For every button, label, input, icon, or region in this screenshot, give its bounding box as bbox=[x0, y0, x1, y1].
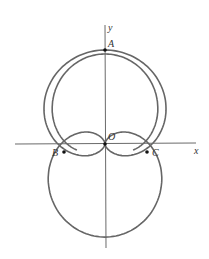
point-B bbox=[62, 150, 66, 154]
point-A bbox=[103, 48, 107, 52]
label-y: y bbox=[107, 22, 113, 33]
label-C: C bbox=[152, 147, 159, 158]
polar-curves-diagram: y A O B C x bbox=[0, 0, 209, 259]
lower-curve bbox=[48, 132, 162, 237]
label-A: A bbox=[107, 38, 115, 49]
point-O bbox=[103, 142, 107, 146]
label-B: B bbox=[52, 147, 58, 158]
point-C bbox=[145, 150, 149, 154]
label-O: O bbox=[108, 131, 115, 142]
label-x: x bbox=[193, 145, 199, 156]
y-axis bbox=[105, 25, 106, 248]
